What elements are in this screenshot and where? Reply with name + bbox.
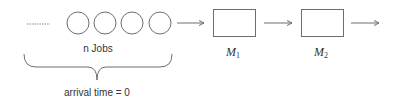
job-circle	[149, 12, 171, 34]
flow-shop-diagram: M1 M2 n Jobs arrival time = 0	[0, 0, 397, 105]
job-queue	[67, 12, 171, 34]
machine-box-m1	[214, 10, 256, 37]
brace	[24, 54, 172, 80]
job-circle	[67, 12, 89, 34]
arrival-time-label: arrival time = 0	[64, 87, 130, 98]
machine-label-m1: M1	[225, 45, 240, 60]
machine-label-m2: M2	[313, 45, 328, 60]
machine-box-m2	[302, 10, 344, 37]
jobs-label: n Jobs	[83, 43, 112, 54]
job-circle	[121, 12, 143, 34]
job-circle	[94, 12, 116, 34]
